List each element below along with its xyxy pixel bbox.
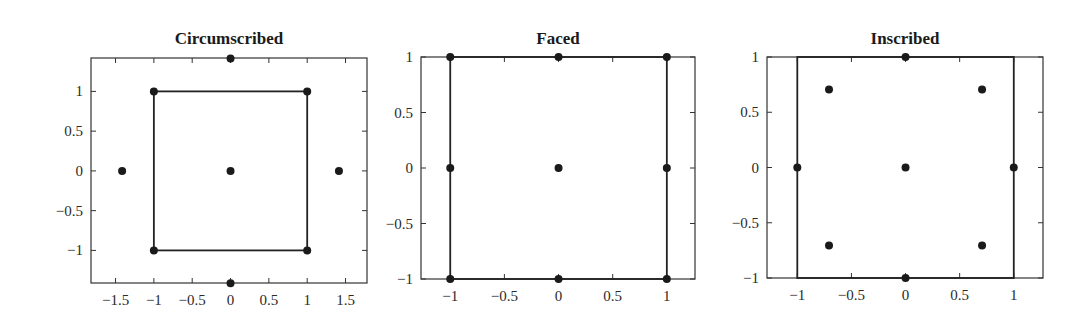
design-point [663, 53, 671, 61]
x-tick-label: −1 [442, 288, 458, 304]
y-tick-label: 1 [406, 49, 414, 65]
design-point [227, 54, 235, 62]
design-point [825, 85, 833, 93]
design-point [150, 246, 158, 254]
x-tick-label: −0.5 [491, 288, 518, 304]
x-tick-label: 1 [303, 292, 311, 308]
y-tick-label: 1 [76, 83, 84, 99]
design-point [978, 85, 986, 93]
panel-inscribed: Inscribed−1−0.500.51−1−0.500.51 [732, 29, 1043, 303]
design-point [663, 275, 671, 283]
x-tick-label: 1 [1010, 287, 1018, 303]
design-point [446, 164, 454, 172]
design-point [555, 164, 563, 172]
design-point [978, 242, 986, 250]
y-tick-label: −1 [67, 242, 83, 258]
y-tick-label: −1 [397, 271, 413, 287]
chart-title: Circumscribed [175, 29, 284, 48]
y-tick-label: 0.5 [740, 104, 759, 120]
x-tick-label: 0 [555, 288, 563, 304]
design-point [555, 275, 563, 283]
x-tick-label: 1.5 [336, 292, 355, 308]
figure: Circumscribed−1.5−1−0.500.511.5−1−0.500.… [0, 0, 1089, 321]
design-point [555, 53, 563, 61]
y-tick-label: −1 [743, 270, 759, 286]
design-point [227, 167, 235, 175]
design-point [150, 87, 158, 95]
x-tick-label: 0 [227, 292, 235, 308]
design-point [902, 274, 910, 282]
design-point [303, 246, 311, 254]
design-point [227, 279, 235, 287]
design-point [1010, 164, 1018, 172]
panel-faced: Faced−1−0.500.51−1−0.500.51 [386, 29, 695, 304]
chart-title: Faced [536, 29, 580, 48]
x-tick-label: 0 [902, 287, 910, 303]
y-tick-label: −0.5 [732, 215, 759, 231]
y-tick-label: 0 [76, 163, 84, 179]
x-tick-label: 0.5 [603, 288, 622, 304]
design-point [335, 167, 343, 175]
x-tick-label: 1 [663, 288, 671, 304]
design-point [902, 164, 910, 172]
y-tick-label: 0 [752, 160, 760, 176]
y-tick-label: 0 [406, 160, 414, 176]
x-tick-label: −0.5 [838, 287, 865, 303]
y-tick-label: 0.5 [64, 123, 83, 139]
y-tick-label: 1 [752, 49, 760, 65]
design-point [446, 53, 454, 61]
design-point [663, 164, 671, 172]
y-tick-label: −0.5 [56, 203, 83, 219]
y-tick-label: −0.5 [386, 216, 413, 232]
x-tick-label: −0.5 [179, 292, 206, 308]
design-point [902, 53, 910, 61]
design-point [118, 167, 126, 175]
chart-title: Inscribed [871, 29, 941, 48]
panel-circumscribed: Circumscribed−1.5−1−0.500.511.5−1−0.500.… [56, 29, 367, 308]
y-tick-label: 0.5 [394, 105, 413, 121]
x-tick-label: −1.5 [102, 292, 129, 308]
x-tick-label: 0.5 [259, 292, 278, 308]
design-point [303, 87, 311, 95]
x-tick-label: −1 [789, 287, 805, 303]
design-point [793, 164, 801, 172]
design-point [446, 275, 454, 283]
x-tick-label: −1 [146, 292, 162, 308]
design-point [825, 242, 833, 250]
x-tick-label: 0.5 [950, 287, 969, 303]
